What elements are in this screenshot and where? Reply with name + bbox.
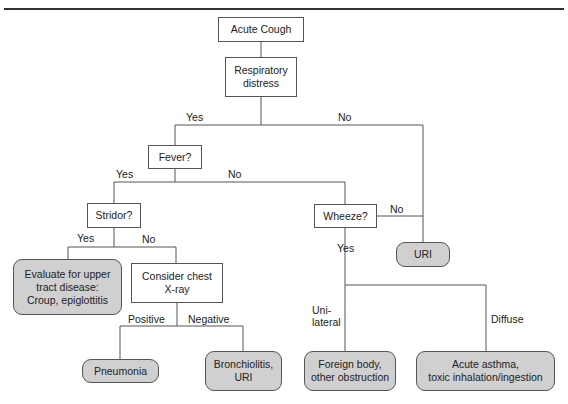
node-wheeze-label: Wheeze? [323,210,367,223]
node-bronchiolitis-label: Bronchiolitis, URI [214,358,274,384]
node-uri: URI [396,242,450,267]
node-foreign-body: Foreign body, other obstruction [304,351,396,391]
edge-label-xray-negative: Negative [188,313,229,325]
node-acute-cough: Acute Cough [218,17,304,42]
edge-label-stridor-no: No [142,233,155,245]
edge-label-diffuse: Diffuse [491,313,524,325]
node-fever: Fever? [148,145,202,169]
edge-label-xray-positive: Positive [128,313,165,325]
edge-label-unilateral: Uni- lateral [312,304,341,328]
node-uri-label: URI [414,248,432,261]
node-acute-asthma-label: Acute asthma, toxic inhalation/ingestion [428,358,542,384]
edge-label-resp-no: No [338,111,351,123]
node-foreign-body-label: Foreign body, other obstruction [311,358,389,384]
node-consider-xray-label: Consider chest X-ray [142,270,212,296]
node-pneumonia: Pneumonia [82,359,159,383]
node-fever-label: Fever? [159,151,192,164]
edge-label-fever-no: No [228,168,241,180]
edge-label-wheeze-yes: Yes [337,242,354,254]
node-respiratory-distress: Respiratory distress [225,57,297,97]
node-evaluate-upper-tract: Evaluate for upper tract disease: Croup,… [13,259,122,315]
edge-label-stridor-yes: Yes [77,232,94,244]
edge-label-resp-yes: Yes [186,111,203,123]
node-respiratory-distress-label: Respiratory distress [234,64,288,90]
node-stridor: Stridor? [87,203,141,228]
node-wheeze: Wheeze? [314,204,377,228]
node-acute-asthma: Acute asthma, toxic inhalation/ingestion [416,351,555,391]
node-bronchiolitis: Bronchiolitis, URI [205,351,282,391]
node-pneumonia-label: Pneumonia [94,365,147,378]
node-stridor-label: Stridor? [96,209,133,222]
edge-label-wheeze-no: No [390,203,403,215]
node-consider-xray: Consider chest X-ray [131,263,223,303]
node-acute-cough-label: Acute Cough [231,23,292,36]
node-evaluate-upper-tract-label: Evaluate for upper tract disease: Croup,… [25,268,111,307]
edge-label-fever-yes: Yes [116,168,133,180]
